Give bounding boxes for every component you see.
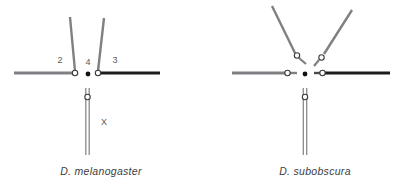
arm-upper-left [272, 6, 295, 53]
chromosome-2-up-arm [70, 17, 75, 71]
species-label-melanogaster: D. melanogaster [60, 165, 142, 177]
chromosome-x-centromere [85, 94, 90, 99]
chromosome-x-label: X [101, 117, 107, 127]
arm-upper-left-stub [299, 58, 306, 64]
chromosome-2-centromere [72, 70, 77, 75]
arm-upper-right-stub [314, 60, 319, 66]
dot-chromosome [303, 72, 308, 77]
arm-upper-right [324, 10, 352, 54]
chromosome-2-label: 2 [57, 55, 62, 65]
arm-upper-right-centromere [319, 55, 324, 60]
chromosome-figure: 2 4 3 X D. melanogaster D. subobscura [0, 0, 403, 189]
arm-left-centromere [285, 70, 290, 75]
chromosome-4-dot [86, 72, 91, 77]
species-label-subobscura: D. subobscura [279, 165, 351, 177]
panel-melanogaster: 2 4 3 X D. melanogaster [14, 17, 160, 177]
chromosome-3-label: 3 [112, 55, 117, 65]
chromosome-3-centromere [95, 70, 100, 75]
chromosome-x-centromere-sub [302, 94, 307, 99]
arm-upper-left-centromere [294, 53, 299, 58]
karyotype-diagram: 2 4 3 X D. melanogaster D. subobscura [0, 0, 403, 189]
chromosome-4-label: 4 [85, 57, 90, 67]
arm-right-centromere [320, 70, 325, 75]
chromosome-3-up-arm [98, 18, 104, 71]
panel-subobscura: D. subobscura [232, 6, 390, 177]
